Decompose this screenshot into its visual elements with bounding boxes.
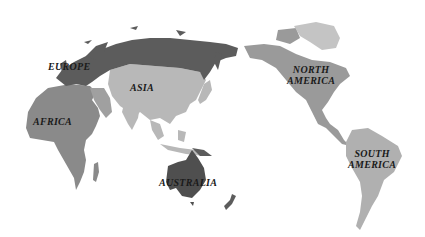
australia-shape [166, 150, 206, 198]
label-south-america: SOUTH AMERICA [348, 148, 396, 170]
greenland-shape [294, 22, 340, 50]
south-america-shape [346, 128, 402, 230]
label-north-america: NORTH AMERICA [287, 64, 335, 86]
canadian-archipelago-shape [276, 28, 300, 44]
label-australia: AUSTRALIA [159, 177, 217, 188]
tasmania-shape [190, 202, 194, 206]
new-zealand-shape [224, 194, 236, 210]
asia-shape [108, 64, 206, 124]
madagascar-shape [93, 162, 99, 182]
label-africa: AFRICA [33, 116, 72, 127]
india-shape [122, 104, 140, 130]
africa-shape [26, 84, 100, 190]
label-south-america-line2: AMERICA [348, 159, 396, 170]
label-south-america-line1: SOUTH [348, 148, 396, 159]
label-asia: ASIA [130, 82, 154, 93]
label-north-america-line2: AMERICA [287, 75, 335, 86]
world-map: EUROPE ASIA AFRICA AUSTRALIA NORTH AMERI… [0, 0, 425, 237]
north-america-shape [244, 44, 350, 146]
label-north-america-line1: NORTH [287, 64, 335, 75]
label-europe: EUROPE [48, 61, 90, 72]
